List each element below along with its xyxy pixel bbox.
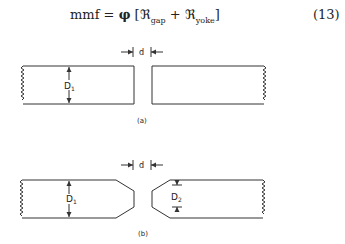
d1-label-b: D1 [66,194,77,205]
break-edge-right-b [262,180,265,214]
break-edge-left-b [20,180,23,216]
left-pole-a [23,66,134,104]
gap-label-a: d [139,48,144,57]
right-pole-a [152,66,264,104]
caption-a: (a) [137,117,147,125]
left-pole-b [22,180,134,218]
break-edge-right-a [263,66,266,100]
break-edge-left-a [21,66,24,100]
magnetic-gap-diagram: d D1 (a) d D1 D2 (b) [0,0,345,244]
d1-label-a: D1 [64,81,75,92]
right-pole-b [152,180,263,218]
caption-b: (b) [138,230,148,238]
d2-label-b: D2 [171,192,182,203]
gap-label-b: d [139,161,144,170]
